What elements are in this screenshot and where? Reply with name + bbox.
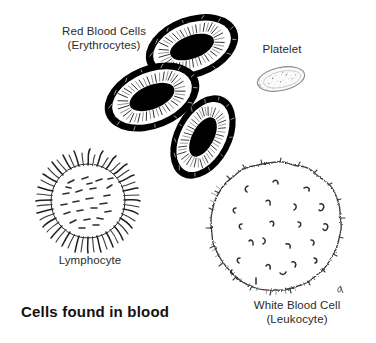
lymphocyte-shape bbox=[36, 149, 140, 253]
label-white-blood-cell: White Blood Cell (Leukocyte) bbox=[232, 298, 362, 326]
white-blood-cell-shape bbox=[206, 158, 345, 295]
label-red-blood-cells-line1: Red Blood Cells bbox=[62, 25, 146, 37]
label-platelet: Platelet bbox=[236, 42, 328, 56]
figure-caption: Cells found in blood bbox=[21, 303, 169, 320]
red-blood-cell-lower bbox=[157, 84, 249, 190]
platelet-shape bbox=[255, 63, 307, 95]
red-blood-cell-middle bbox=[94, 49, 209, 144]
label-platelet-line1: Platelet bbox=[262, 43, 301, 55]
label-white-blood-cell-line2: (Leukocyte) bbox=[232, 312, 362, 326]
label-red-blood-cells: Red Blood Cells (Erythrocytes) bbox=[34, 24, 174, 52]
label-lymphocyte-line1: Lymphocyte bbox=[59, 254, 122, 266]
label-white-blood-cell-line1: White Blood Cell bbox=[254, 299, 341, 311]
blood-cells-illustration: Red Blood Cells (Erythrocytes) Platelet … bbox=[0, 0, 376, 343]
label-red-blood-cells-line2: (Erythrocytes) bbox=[34, 38, 174, 52]
label-lymphocyte: Lymphocyte bbox=[42, 253, 138, 267]
